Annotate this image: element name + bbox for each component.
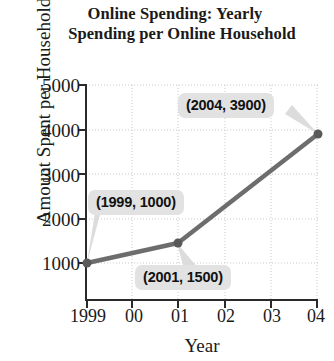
y-axis-ticks	[79, 85, 86, 263]
data-label-1999: (1999, 1000)	[88, 190, 184, 215]
data-label-2004: (2004, 3900)	[178, 93, 274, 118]
leader-line-2004	[285, 105, 318, 134]
data-point-1999	[83, 259, 92, 268]
data-point-2004	[314, 130, 323, 139]
x-axis-ticks	[87, 300, 317, 308]
data-point-2001	[174, 239, 183, 248]
plot-area	[0, 0, 334, 361]
data-label-2001: (2001, 1500)	[135, 265, 231, 290]
chart-figure: Online Spending: Yearly Spending per Onl…	[0, 0, 334, 361]
